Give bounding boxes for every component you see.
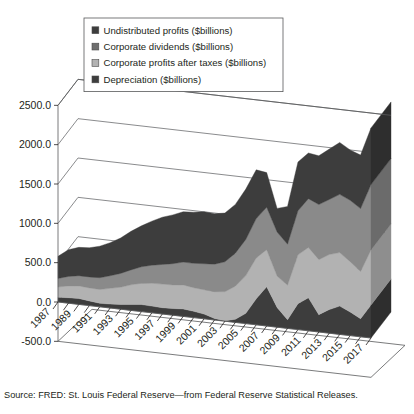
legend-item[interactable]: Undistributed profits ($billions) xyxy=(92,25,233,36)
legend-item[interactable]: Corporate dividends ($billions) xyxy=(92,41,233,52)
y-axis-tick-label: 1500.0 xyxy=(19,178,51,190)
y-axis-tick-label: 500.0 xyxy=(25,256,51,268)
legend-item-label: Corporate profits after taxes ($billions… xyxy=(104,57,267,68)
y-axis-tick-label: 2000.0 xyxy=(19,138,51,150)
legend-item[interactable]: Corporate profits after taxes ($billions… xyxy=(92,57,266,68)
stacked-area-chart: 2500.02000.01500.01000.0500.00.0-500.0 1… xyxy=(0,0,414,414)
legend-swatch-corporate-dividends xyxy=(92,43,99,50)
legend-item[interactable]: Depreciation ($billions) xyxy=(92,74,201,85)
legend-swatch-corporate-profits-after-taxes xyxy=(92,60,99,67)
y-axis-tick-label: 1000.0 xyxy=(19,217,51,229)
y-axis-tick-label: 2500.0 xyxy=(19,99,51,111)
legend-swatch-undistributed-profits xyxy=(92,27,99,34)
chart-container: 2500.02000.01500.01000.0500.00.0-500.0 1… xyxy=(0,0,414,414)
legend-item-label: Corporate dividends ($billions) xyxy=(104,41,234,52)
y-axis-tick-label: -500.0 xyxy=(21,335,51,347)
source-caption: Source: FRED: St. Louis Federal Reserve—… xyxy=(4,390,358,400)
legend-item-label: Depreciation ($billions) xyxy=(104,74,202,85)
legend-swatch-depreciation xyxy=(92,76,99,83)
legend-item-label: Undistributed profits ($billions) xyxy=(104,25,233,36)
chart-legend: Undistributed profits ($billions)Corpora… xyxy=(84,18,283,92)
chart-3d-side-face xyxy=(371,102,391,338)
